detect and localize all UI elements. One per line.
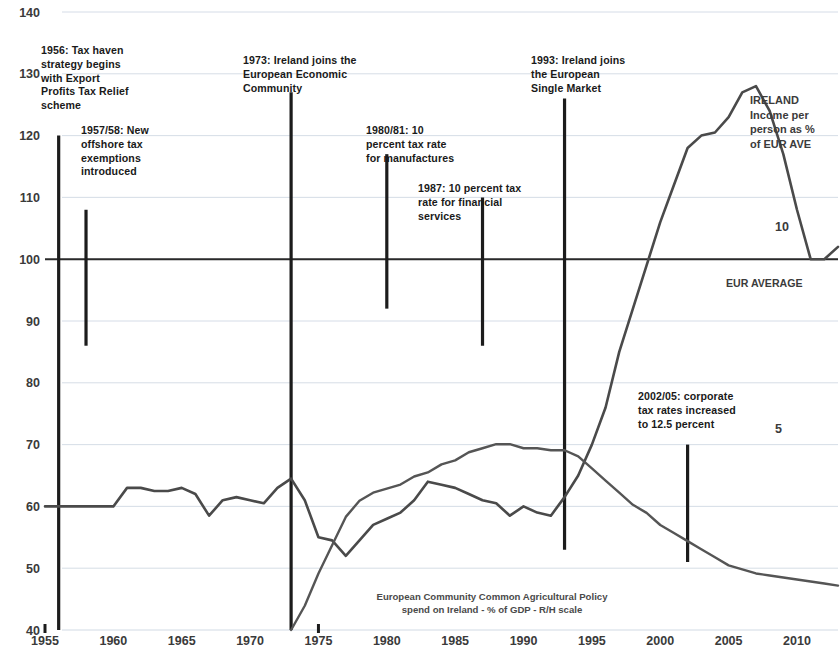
annotation-1993: 1993: Ireland joins the European Single … <box>531 54 653 95</box>
svg-text:80: 80 <box>26 376 40 390</box>
x-axis-tick-marks <box>45 624 318 633</box>
series-label-eur-average: EUR AVERAGE <box>726 277 803 289</box>
svg-text:10: 10 <box>775 220 789 234</box>
chart-canvas: 405060708090100110120130140 195519601965… <box>0 0 840 652</box>
svg-text:2005: 2005 <box>715 634 743 648</box>
svg-text:1995: 1995 <box>578 634 606 648</box>
svg-text:60: 60 <box>26 500 40 514</box>
svg-text:2010: 2010 <box>783 634 811 648</box>
annotation-1956: 1956: Tax haven strategy begins with Exp… <box>41 44 159 113</box>
svg-text:100: 100 <box>19 253 40 267</box>
gridlines <box>62 12 838 630</box>
annotation-1987: 1987: 10 percent tax rate for financial … <box>418 182 546 223</box>
annotation-1957-58: 1957/58: New offshore tax exemptions int… <box>81 124 193 179</box>
svg-text:130: 130 <box>19 67 40 81</box>
svg-text:5: 5 <box>775 422 782 436</box>
right-axis-tick-labels: 510 <box>775 220 789 436</box>
svg-text:90: 90 <box>26 315 40 329</box>
svg-text:70: 70 <box>26 438 40 452</box>
annotation-1980-81: 1980/81: 10 percent tax rate for manufac… <box>366 124 482 165</box>
page-edge-smudge <box>2 636 302 650</box>
svg-text:110: 110 <box>20 191 40 205</box>
svg-text:1980: 1980 <box>373 634 401 648</box>
y-axis-tick-labels: 405060708090100110120130140 <box>19 6 40 638</box>
series-label-ireland: IRELAND Income per person as % of EUR AV… <box>750 93 838 151</box>
series-label-cap: European Community Common Agricultural P… <box>372 591 612 617</box>
svg-text:140: 140 <box>19 6 40 20</box>
annotation-1973: 1973: Ireland joins the European Economi… <box>243 54 395 95</box>
svg-text:2000: 2000 <box>646 634 674 648</box>
svg-text:1975: 1975 <box>305 634 333 648</box>
svg-text:50: 50 <box>26 562 40 576</box>
annotation-2002-05: 2002/05: corporate tax rates increased t… <box>638 390 768 431</box>
svg-text:1990: 1990 <box>510 634 538 648</box>
svg-text:120: 120 <box>19 129 40 143</box>
svg-text:1985: 1985 <box>441 634 469 648</box>
